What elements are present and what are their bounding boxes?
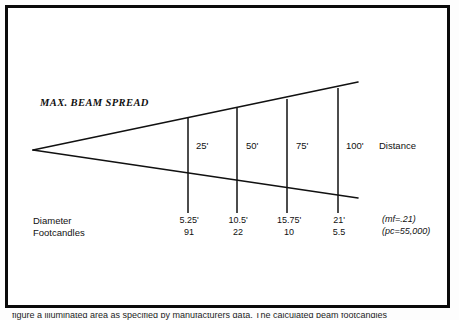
diameter-value-100: 21' — [333, 216, 345, 225]
lower-beam-line — [33, 150, 358, 198]
footcandles-value-75: 10 — [284, 228, 294, 237]
beam-spread-title: MAX. BEAM SPREAD — [40, 98, 149, 109]
caption-partial: figure a illuminated area as specified b… — [12, 313, 452, 320]
distance-axis-label: Distance — [379, 141, 416, 151]
caption-partial-text: figure a illuminated area as specified b… — [12, 313, 452, 320]
footcandles-row-label: Footcandles — [33, 228, 85, 238]
peak-candlepower-note: (pc=55,000) — [382, 227, 430, 236]
footcandles-value-100: 5.5 — [333, 228, 346, 237]
footcandles-value-50: 22 — [233, 228, 243, 237]
footcandles-value-25: 91 — [184, 228, 194, 237]
diameter-row-label: Diameter — [33, 216, 72, 226]
diameter-value-75: 15.75' — [277, 216, 301, 225]
maintenance-factor-note: (mf=.21) — [382, 215, 416, 224]
beam-spread-figure: MAX. BEAM SPREAD 25' 50' 75' 100' Distan… — [0, 0, 459, 320]
distance-tick-label-25: 25' — [196, 141, 208, 151]
diameter-value-50: 10.5' — [228, 216, 247, 225]
distance-tick-label-50: 50' — [246, 141, 258, 151]
beam-diagram — [0, 0, 459, 320]
diameter-value-25: 5.25' — [179, 216, 198, 225]
distance-tick-label-100: 100' — [346, 141, 364, 151]
distance-tick-label-75: 75' — [296, 141, 308, 151]
